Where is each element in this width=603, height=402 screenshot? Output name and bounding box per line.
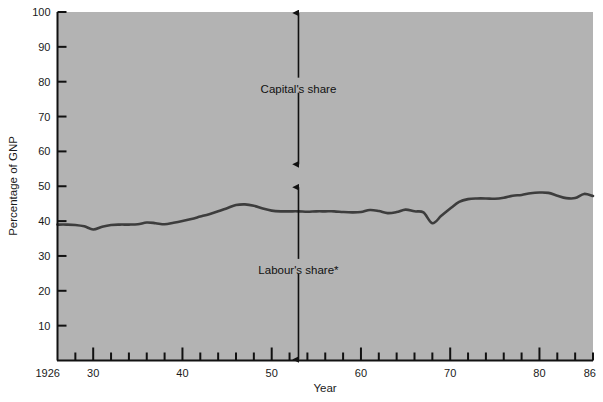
y-tick-label: 80	[38, 76, 50, 88]
x-tick-label: 40	[176, 367, 188, 379]
y-tick-label: 100	[32, 6, 50, 18]
x-tick-label: 80	[533, 367, 545, 379]
x-tick-label: 1926	[36, 367, 60, 379]
y-axis-title: Percentage of GNP	[7, 136, 19, 236]
y-tick-label: 40	[38, 215, 50, 227]
x-tick-label: 30	[87, 367, 99, 379]
line-chart: 102030405060708090100 192630405060708086…	[0, 0, 603, 402]
y-tick-label: 70	[38, 111, 50, 123]
x-axis-title: Year	[313, 382, 336, 394]
y-tick-label: 50	[38, 180, 50, 192]
annotation-label-labour-share: Labour's share*	[258, 264, 339, 276]
x-axis-tick-labels: 192630405060708086	[36, 367, 597, 379]
y-tick-label: 10	[38, 320, 50, 332]
y-tick-label: 20	[38, 285, 50, 297]
chart-figure: 102030405060708090100 192630405060708086…	[0, 0, 603, 402]
y-tick-label: 30	[38, 250, 50, 262]
annotation-label-capital-share: Capital's share	[261, 83, 337, 95]
x-tick-label: 50	[266, 367, 278, 379]
x-tick-label: 70	[444, 367, 456, 379]
plot-background	[57, 12, 593, 360]
y-tick-label: 60	[38, 145, 50, 157]
y-tick-label: 90	[38, 41, 50, 53]
x-tick-label: 60	[355, 367, 367, 379]
x-tick-label: 86	[584, 367, 596, 379]
